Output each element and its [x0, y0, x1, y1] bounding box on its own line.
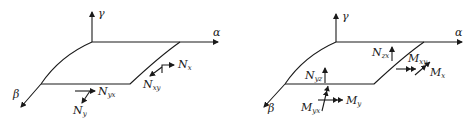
ny-label: Ny: [72, 104, 88, 118]
mxy-label: Mxy: [407, 52, 428, 66]
beta-axis-label: β: [267, 102, 274, 115]
gamma-axis-label: γ: [342, 10, 349, 23]
panel-membrane-forces: γ α β Nx Nxy Nyx Ny: [12, 7, 221, 118]
ny-arrow: [82, 91, 90, 103]
my-label: My: [345, 94, 362, 108]
nyz-label: Nyz: [304, 69, 323, 83]
nyx-label: Nyx: [97, 85, 116, 99]
nx-arrow: [162, 65, 174, 73]
alpha-axis-label: α: [213, 26, 221, 39]
mx-label: Mx: [429, 66, 445, 80]
beta-axis: [21, 42, 92, 107]
myx-arrow: [322, 86, 328, 111]
nx-label: Nx: [177, 58, 192, 72]
beta-axis-label: β: [12, 88, 19, 101]
myx-label: Myx: [300, 101, 320, 115]
panel-shear-and-moments: γ α β Nzx Nyz Mxy Mx Myx My: [264, 10, 463, 115]
nzx-label: Nzx: [371, 46, 389, 60]
nxy-arrow: [150, 67, 162, 76]
nxy-label: Nxy: [142, 78, 162, 92]
shell-element-diagram: γ α β Nx Nxy Nyx Ny γ α β Nzx Nyz Mxy: [0, 0, 473, 123]
alpha-axis-label: α: [455, 26, 463, 39]
gamma-axis-label: γ: [98, 7, 105, 20]
plate-element: [41, 42, 180, 84]
